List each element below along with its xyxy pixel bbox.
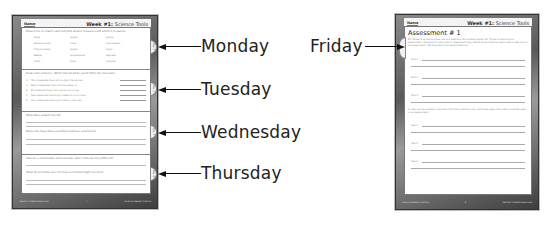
page-footer: Science Weekly Practice 8 Teacher Create… (402, 198, 532, 206)
weekly-practice-page: Name Week #1: Science Tools Draw a line … (12, 15, 158, 209)
page-header: Name Week #1: Science Tools (404, 18, 532, 26)
tuesday-callout: Tuesday (158, 81, 272, 98)
day-4-prompt-b: What do scientists use? Tell how a scien… (26, 166, 146, 174)
word-match-grid: Ruler length grams Balance scale mass ce… (26, 33, 146, 63)
answer-line (120, 100, 146, 101)
word: temperature (70, 54, 102, 57)
word: liters (106, 48, 138, 51)
word: mass (70, 42, 102, 45)
day-4-tab: Day 4 (150, 167, 157, 181)
friday-callout: Friday (310, 38, 405, 55)
word: length (70, 36, 102, 39)
page-header: Name Week #1: Science Tools (21, 19, 151, 27)
word: Balance scale (34, 42, 66, 45)
answer-line (422, 60, 525, 61)
section-day-1: Draw a line to match each tool with what… (22, 28, 150, 70)
assessment-mid-prompt: A ruler can be another important tool th… (405, 103, 531, 115)
thursday-callout: Thursday (158, 165, 282, 182)
tool-1-row: Tool 1 (405, 49, 531, 61)
arrow-line (166, 46, 201, 47)
worksheet-body: Draw a line to match each tool with what… (21, 27, 151, 194)
arrow-line (166, 89, 201, 90)
tool-3-row: Tool 3 (405, 85, 531, 97)
answer-line (422, 162, 525, 163)
section-day-2: Read each sentence. Which tool would be … (22, 70, 150, 112)
thursday-label: Thursday (201, 165, 282, 182)
word: minutes (106, 60, 138, 63)
word: Clock (34, 60, 66, 63)
tool-2-row: Tool 2 (405, 67, 531, 79)
arrow-left-icon (158, 87, 166, 93)
answer-line (422, 126, 525, 127)
assessment-intro: Mr. Torres is an astronomer. He is a sci… (405, 37, 531, 49)
arrow-line (166, 173, 201, 174)
question-item: 5.Jack measures how much mass a rock has… (26, 98, 146, 103)
word: degrees (106, 54, 138, 57)
assessment-title: Assessment # 1 (405, 27, 531, 37)
arrow-line (365, 46, 397, 47)
answer-line (422, 78, 525, 79)
answer-line (120, 95, 146, 96)
monday-label: Monday (201, 38, 269, 55)
tuesday-label: Tuesday (201, 81, 272, 98)
section-day-4: How are a microscope and telescope alike… (22, 155, 150, 193)
word: length (70, 48, 102, 51)
use-2-row: Use 2 (405, 133, 531, 145)
assessment-body: Assessment # 1 Mr. Torres is an astronom… (404, 26, 532, 195)
footer-left: Science Weekly Practice (402, 201, 429, 204)
question-list: 1.Tom measures how tall his plant has gr… (26, 75, 146, 103)
page-number: 7 (86, 200, 87, 203)
word: time (70, 60, 102, 63)
word: centimeters (106, 42, 138, 45)
day-2-tab: Day 2 (150, 82, 157, 96)
word: grams (106, 36, 138, 39)
word: Thermometer (34, 48, 66, 51)
day-1-tab: Day 1 (150, 40, 157, 54)
friday-label: Friday (310, 38, 363, 55)
page-number: 8 (465, 201, 466, 204)
footer-right: Science Weekly Practice (124, 200, 151, 203)
arrow-left-icon (158, 130, 166, 136)
answer-line (411, 168, 525, 169)
write-line (26, 181, 146, 185)
assessment-page: Name Week #1: Science Tools Assessment #… (395, 14, 539, 210)
write-line (26, 140, 146, 145)
day-3-tab: Day 3 (150, 125, 157, 139)
answer-line (422, 96, 525, 97)
arrow-left-icon (158, 44, 166, 50)
answer-line (120, 85, 146, 86)
monday-callout: Monday (158, 38, 269, 55)
answer-line (120, 90, 146, 91)
word: Ruler (34, 36, 66, 39)
footer-right: Teacher Created Resources (502, 201, 532, 204)
use-1-row: Use 1 (405, 115, 531, 127)
wednesday-label: Wednesday (201, 124, 301, 141)
answer-line (422, 144, 525, 145)
footer-left: Teacher Created Resources (19, 200, 49, 203)
arrow-line (166, 132, 201, 133)
use-3-row: Use 3 (405, 151, 531, 163)
page-footer: Teacher Created Resources 7 Science Week… (19, 197, 151, 205)
section-day-3: What does a hand lens do? Name two ways … (22, 112, 150, 155)
arrow-left-icon (158, 171, 166, 177)
word: Beaker (34, 54, 66, 57)
answer-line (120, 80, 146, 81)
arrow-right-icon (397, 44, 405, 50)
wednesday-callout: Wednesday (158, 124, 301, 141)
